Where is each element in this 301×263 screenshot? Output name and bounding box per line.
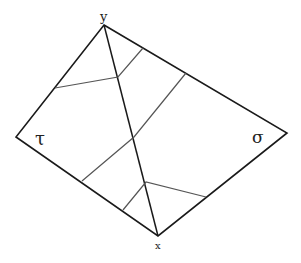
inner-path-middle xyxy=(82,73,186,181)
label-bottom-vertex: x xyxy=(155,240,161,251)
outer-quadrilateral xyxy=(16,25,287,236)
inner-path-upper xyxy=(55,48,143,88)
inner-path-lower xyxy=(123,182,206,210)
label-right-region: σ xyxy=(252,127,264,147)
quadrilateral-diagram: y x τ σ xyxy=(0,0,301,263)
label-left-region: τ xyxy=(35,128,45,149)
label-top-vertex: y xyxy=(99,9,108,24)
